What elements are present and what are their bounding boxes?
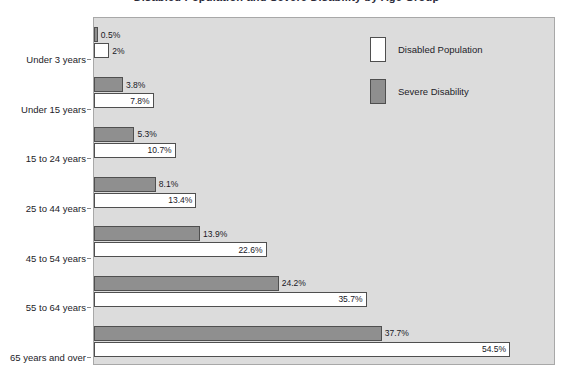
category-tick <box>87 208 91 209</box>
category-tick <box>87 357 91 358</box>
plot-area: 0.5%2%3.8%7.8%5.3%10.7%8.1%13.4%13.9%22.… <box>93 17 555 365</box>
bar-value-label: 37.7% <box>382 328 409 338</box>
bar-value-label: 22.6% <box>238 245 266 255</box>
bar-value-label: 8.1% <box>156 179 178 189</box>
legend-swatch-severe <box>370 79 386 104</box>
chart-title: Disabled Population and Severe Disabilit… <box>0 0 573 3</box>
bar-value-label: 0.5% <box>98 30 120 40</box>
bar-severe-disability <box>94 77 123 92</box>
category-tick <box>87 307 91 308</box>
bar-value-label: 13.4% <box>168 195 196 205</box>
bar-value-label: 24.2% <box>279 278 306 288</box>
category-tick <box>87 258 91 259</box>
legend-label: Disabled Population <box>398 44 483 55</box>
bar-value-label: 5.3% <box>134 129 156 139</box>
category-label: 55 to 64 years <box>26 302 86 313</box>
category-tick <box>87 59 91 60</box>
category-label: 25 to 44 years <box>26 203 86 214</box>
bar-value-label: 2% <box>109 46 124 56</box>
bar-disabled-population <box>94 43 109 58</box>
bar-severe-disability <box>94 276 279 291</box>
category-label: 65 years and over <box>10 352 86 363</box>
bar-value-label: 13.9% <box>200 229 227 239</box>
category-label: 45 to 54 years <box>26 252 86 263</box>
bar-value-label: 35.7% <box>338 294 366 304</box>
legend-swatch-disabled <box>370 37 386 62</box>
bar-severe-disability <box>94 127 134 142</box>
bar-severe-disability <box>94 177 156 192</box>
category-tick <box>87 158 91 159</box>
bar-severe-disability <box>94 326 382 341</box>
legend-item: Severe Disability <box>370 79 540 104</box>
bar-value-label: 7.8% <box>130 96 153 106</box>
legend-item: Disabled Population <box>370 37 540 62</box>
legend-label: Severe Disability <box>398 86 469 97</box>
bar-disabled-population <box>94 292 367 307</box>
chart-screenshot: Disabled Population and Severe Disabilit… <box>0 0 573 382</box>
category-tick <box>87 109 91 110</box>
bar-severe-disability <box>94 226 200 241</box>
bar-value-label: 10.7% <box>148 145 176 155</box>
bar-disabled-population <box>94 342 510 357</box>
bar-value-label: 3.8% <box>123 80 145 90</box>
category-axis: Under 3 yearsUnder 15 years15 to 24 year… <box>0 17 91 365</box>
category-label: 15 to 24 years <box>26 153 86 164</box>
category-label: Under 3 years <box>26 53 86 64</box>
category-label: Under 15 years <box>21 103 86 114</box>
bar-value-label: 54.5% <box>482 344 510 354</box>
